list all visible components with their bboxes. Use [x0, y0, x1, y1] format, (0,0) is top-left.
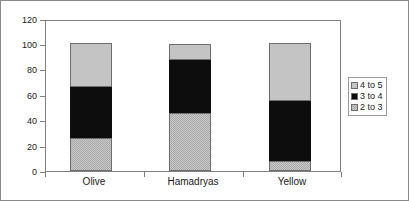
x-axis-label-yellow: Yellow: [278, 177, 307, 187]
bar-hamadryas: [169, 21, 211, 171]
x-axis-label-olive: Olive: [83, 177, 106, 187]
x-axis-label-hamadryas: Hamadryas: [167, 177, 218, 187]
y-axis-tick-label: 100: [7, 41, 37, 50]
chart-legend: 4 to 5 3 to 4 2 to 3: [348, 77, 387, 116]
legend-item-3to4: 3 to 4: [351, 91, 383, 102]
legend-swatch-3to4-icon: [351, 93, 358, 100]
y-axis-tick-label: 20: [7, 143, 37, 152]
plot-area: [45, 20, 341, 172]
bar-olive: [70, 21, 112, 171]
bar-segment-olive-2to3: [70, 138, 112, 171]
legend-item-4to5: 4 to 5: [351, 80, 383, 91]
bar-segment-hamadryas-3to4: [169, 60, 211, 113]
bar-segment-yellow-2to3: [269, 161, 311, 171]
bar-segment-hamadryas-4to5: [169, 44, 211, 59]
x-axis-tick-mark: [144, 172, 145, 177]
bar-yellow: [269, 21, 311, 171]
y-axis-tick-label: 0: [7, 168, 37, 177]
bar-segment-yellow-3to4: [269, 101, 311, 161]
bar-segment-olive-3to4: [70, 87, 112, 138]
legend-swatch-2to3-icon: [351, 104, 358, 111]
x-axis-tick-mark: [45, 172, 46, 177]
y-axis-tick-label: 80: [7, 66, 37, 75]
x-axis-tick-mark: [243, 172, 244, 177]
x-axis-tick-mark: [341, 172, 342, 177]
bar-segment-hamadryas-2to3: [169, 113, 211, 171]
y-axis-tick-label: 120: [7, 16, 37, 25]
bar-segment-olive-4to5: [70, 43, 112, 87]
y-axis-tick-label: 40: [7, 117, 37, 126]
bar-segment-yellow-4to5: [269, 43, 311, 101]
legend-label-3to4: 3 to 4: [360, 92, 383, 101]
y-axis-tick-label: 60: [7, 92, 37, 101]
legend-label-2to3: 2 to 3: [360, 103, 383, 112]
chart-figure: 120 100 80 60 40 20 0: [0, 0, 409, 201]
legend-item-2to3: 2 to 3: [351, 102, 383, 113]
legend-swatch-4to5-icon: [351, 82, 358, 89]
legend-label-4to5: 4 to 5: [360, 81, 383, 90]
